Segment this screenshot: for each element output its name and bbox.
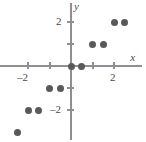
x-axis-tick: [27, 62, 29, 69]
y-tick-label: –2: [50, 104, 61, 115]
data-point: [68, 63, 75, 70]
y-axis-tick: [67, 21, 74, 23]
y-tick-label: 2: [56, 16, 62, 27]
data-point: [78, 63, 85, 70]
scatter-plot-figure: –22–22 x y: [0, 0, 146, 142]
x-axis-minor-tick: [49, 62, 51, 69]
data-point: [25, 107, 32, 114]
data-point: [46, 85, 53, 92]
data-point: [57, 85, 64, 92]
y-axis-line: [70, 3, 72, 140]
x-tick-label: –2: [17, 72, 28, 83]
data-point: [121, 19, 128, 26]
data-point: [111, 19, 118, 26]
y-axis-minor-tick: [67, 87, 74, 89]
data-point: [35, 107, 42, 114]
data-point: [14, 129, 21, 136]
y-axis-label: y: [74, 1, 79, 12]
y-axis-tick: [67, 109, 74, 111]
x-axis-label: x: [130, 52, 135, 63]
x-axis-tick: [113, 62, 115, 69]
data-point: [100, 41, 107, 48]
data-point: [89, 41, 96, 48]
y-axis-minor-tick: [67, 43, 74, 45]
x-tick-label: 2: [110, 72, 116, 83]
x-axis-minor-tick: [92, 62, 94, 69]
